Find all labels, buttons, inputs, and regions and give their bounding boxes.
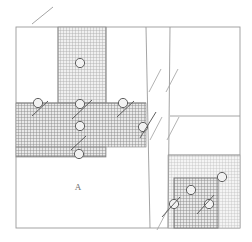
leader-line-top [32, 7, 53, 24]
horizontal-band-lower-stub [16, 147, 106, 157]
bolt-marker [75, 121, 84, 130]
leader-lines-group [32, 7, 53, 24]
bolt-marker [186, 185, 195, 194]
region-label-a: A [75, 182, 82, 192]
bolt-marker [75, 58, 84, 67]
bolt-marker [217, 172, 226, 181]
technical-drawing: A [0, 0, 252, 242]
drawing-canvas: A [0, 0, 252, 242]
